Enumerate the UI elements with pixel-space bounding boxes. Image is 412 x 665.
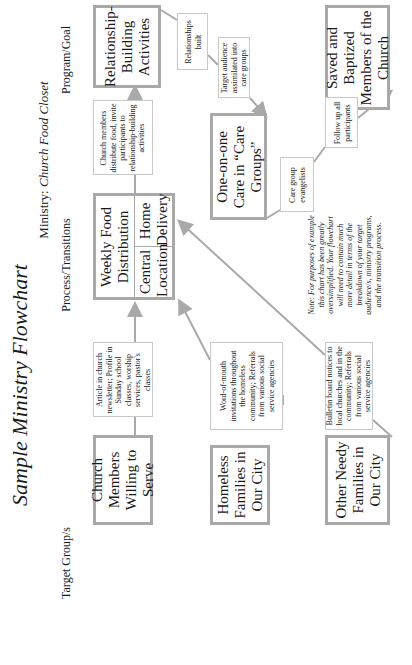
outreach-other-label: Bulletin board notices to local churches… bbox=[325, 345, 373, 427]
target-other-needy-label: Other Needy Families in Our City bbox=[332, 436, 383, 524]
target-homeless: Homeless Families in Our City bbox=[210, 445, 270, 525]
target-church-members-label: Church Members Willing to Serve bbox=[89, 436, 157, 524]
column-header-goal: Program/Goal bbox=[59, 10, 74, 110]
target-homeless-label: Homeless Families in Our City bbox=[215, 446, 266, 524]
outreach-box-homeless: Word-of-mouth invitations throughout the… bbox=[210, 342, 283, 430]
saved-baptized-box: Saved and Baptized Members of the Church bbox=[325, 5, 390, 110]
follow-up-label: Follow up all participants bbox=[332, 99, 351, 147]
ministry-prefix: Ministry: bbox=[36, 190, 51, 238]
note-wrap: Note: For purposes of example this chart… bbox=[295, 215, 395, 315]
outreach-church-label: Article in church newsletter; Profile in… bbox=[95, 345, 152, 415]
care-evangelists-label: Care group evangelists bbox=[288, 160, 307, 210]
distribute-food-label: Church members distribute food, invite p… bbox=[99, 103, 147, 173]
relationship-building-box: Relationship-Building Activities bbox=[93, 5, 161, 88]
chart-title-wrap: Sample Ministry Flowchart bbox=[4, 220, 36, 550]
ministry-label: Ministry: Church Food Closet bbox=[36, 15, 52, 305]
distribute-food-box: Church members distribute food, invite p… bbox=[93, 100, 153, 175]
relationship-building-label: Relationship-Building Activities bbox=[102, 7, 153, 87]
ministry-name: Church Food Closet bbox=[36, 81, 51, 187]
column-header-target: Target Group/s bbox=[59, 505, 74, 620]
weekly-food-box: Weekly Food Distribution Home Delivery C… bbox=[93, 193, 175, 300]
saved-baptized-label: Saved and Baptized Members of the Church bbox=[324, 8, 392, 108]
assimilated-label: Target audience assimilated into care gr… bbox=[220, 39, 249, 97]
outreach-box-church: Article in church newsletter; Profile in… bbox=[93, 342, 153, 417]
follow-up-box: Follow up all participants bbox=[325, 97, 358, 148]
assimilated-box: Target audience assimilated into care gr… bbox=[218, 37, 250, 98]
outreach-homeless-label: Word-of-mouth invitations throughout the… bbox=[218, 345, 275, 427]
weekly-food-label: Weekly Food Distribution bbox=[98, 197, 132, 297]
target-other-needy: Other Needy Families in Our City bbox=[325, 435, 390, 525]
column-header-target-wrap: Target Group/s bbox=[56, 505, 76, 620]
chart-title: Sample Ministry Flowchart bbox=[7, 220, 33, 550]
outreach-box-other: Bulletin board notices to local churches… bbox=[325, 342, 373, 430]
column-header-process: Process/Transitions bbox=[59, 200, 74, 330]
relationships-built-box: Relationships built bbox=[177, 13, 208, 70]
target-church-members: Church Members Willing to Serve bbox=[93, 435, 153, 525]
column-header-process-wrap: Process/Transitions bbox=[56, 200, 76, 330]
relationships-built-label: Relationships built bbox=[183, 16, 202, 68]
care-groups-label: One-on-one Care in “Care Groups” bbox=[213, 117, 264, 217]
column-header-goal-wrap: Program/Goal bbox=[56, 10, 76, 110]
central-location-cell: Central Location bbox=[135, 247, 172, 297]
note-text: Note: For purposes of example this chart… bbox=[307, 215, 383, 315]
central-location-label: Central Location bbox=[137, 247, 171, 297]
care-evangelists-box: Care group evangelists bbox=[280, 157, 314, 212]
care-groups-box: One-on-one Care in “Care Groups” bbox=[210, 113, 267, 220]
weekly-food-header: Weekly Food Distribution bbox=[96, 196, 134, 297]
home-delivery-cell: Home Delivery bbox=[135, 196, 172, 246]
home-delivery-label: Home Delivery bbox=[137, 196, 171, 246]
ministry-label-wrap: Ministry: Church Food Closet bbox=[34, 15, 54, 305]
